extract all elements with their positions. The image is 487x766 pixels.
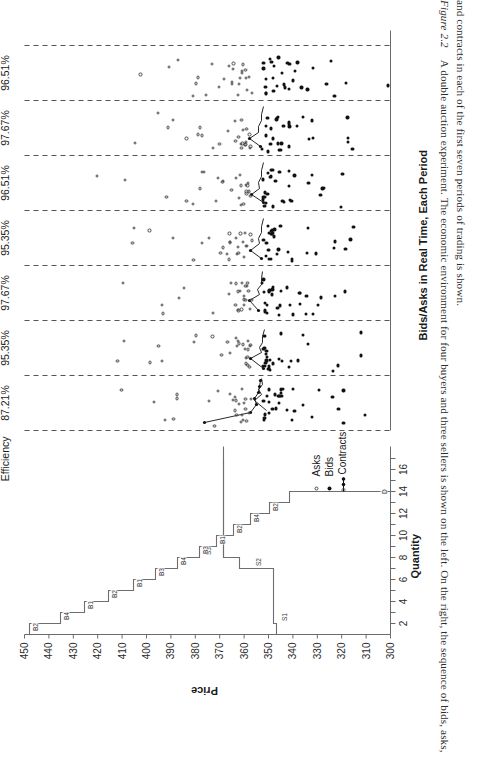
ask-point xyxy=(243,231,246,234)
bid-point xyxy=(268,368,271,371)
bid-point xyxy=(287,169,290,172)
bid-point xyxy=(287,124,290,127)
ask-point xyxy=(238,173,241,176)
ask-point xyxy=(161,311,164,314)
bid-point xyxy=(277,170,280,173)
ask-point xyxy=(247,365,250,368)
bid-point xyxy=(287,184,290,187)
bid-point xyxy=(336,407,339,410)
price-tick-370: 370 xyxy=(213,642,224,682)
ask-point xyxy=(214,199,217,202)
ask-point xyxy=(235,344,238,347)
bid-point xyxy=(267,288,270,291)
ask-point xyxy=(238,231,241,234)
ask-point xyxy=(204,93,207,96)
quantity-tick-6: 6 xyxy=(397,569,408,589)
bid-point xyxy=(269,168,272,171)
bid-point xyxy=(268,57,271,60)
bid-point xyxy=(285,285,288,288)
price-axis-label: Price xyxy=(191,685,218,697)
ask-point xyxy=(147,228,150,231)
bid-point xyxy=(278,224,281,227)
ask-point xyxy=(240,71,243,74)
ask-point xyxy=(225,340,228,343)
bid-point xyxy=(269,174,272,177)
bid-point xyxy=(296,358,299,361)
ask-point xyxy=(249,397,252,400)
ask-point xyxy=(234,336,237,339)
price-tick-380: 380 xyxy=(189,642,200,682)
bid-point xyxy=(264,133,267,136)
ask-point xyxy=(194,81,197,84)
supply-demand-panel: 450 440 430 420 410 400 390 380 370 360 … xyxy=(18,442,414,678)
step-label-b2-1: B2 xyxy=(31,622,38,631)
period-efficiency-1: 87.21% xyxy=(0,375,10,430)
ask-point xyxy=(234,176,237,179)
ask-point xyxy=(239,146,242,149)
bid-point xyxy=(348,237,351,240)
ask-point xyxy=(182,286,185,289)
bid-point xyxy=(275,84,278,87)
bid-point xyxy=(261,399,264,402)
bid-point xyxy=(287,120,290,123)
ask-point xyxy=(198,125,201,128)
bid-point xyxy=(276,142,279,145)
bid-point xyxy=(264,77,267,80)
ask-point xyxy=(233,395,236,398)
ask-point xyxy=(239,183,242,186)
ask-point xyxy=(231,67,234,70)
ask-point xyxy=(240,281,243,284)
ask-point xyxy=(249,298,252,301)
bid-point xyxy=(341,388,344,391)
bid-point xyxy=(280,359,283,362)
ask-point xyxy=(176,58,179,61)
ask-point xyxy=(234,413,237,416)
bid-point xyxy=(330,395,333,398)
ask-point xyxy=(191,258,194,261)
bid-point xyxy=(275,252,278,255)
quantity-tick-4: 4 xyxy=(397,591,408,611)
ask-point xyxy=(250,238,253,241)
bid-point xyxy=(265,394,268,397)
bid-point xyxy=(263,190,266,193)
ask-point xyxy=(247,411,250,414)
ask-point xyxy=(250,91,253,94)
price-tick-440: 440 xyxy=(42,642,53,682)
ask-point xyxy=(245,244,248,247)
bid-point xyxy=(329,59,332,62)
bid-point xyxy=(301,403,304,406)
bid-point xyxy=(285,408,288,411)
bid-point xyxy=(339,205,342,208)
step-label-b4-3: B4 xyxy=(252,513,259,522)
step-label-b2-4: B2 xyxy=(271,502,278,511)
bid-point xyxy=(295,124,298,127)
step-label-b3-1: B3 xyxy=(157,567,164,576)
ask-point xyxy=(175,392,178,395)
ask-point xyxy=(171,118,174,121)
ask-point xyxy=(133,141,136,144)
figure-canvas: 450 440 430 420 410 400 390 380 370 360 … xyxy=(0,0,487,766)
period-efficiency-4: 95.35% xyxy=(0,210,10,265)
bids-asks-svg xyxy=(18,30,414,430)
step-label-b2-3: B2 xyxy=(235,524,242,533)
ask-point xyxy=(207,236,210,239)
ask-point xyxy=(246,339,249,342)
ask-point xyxy=(241,62,244,65)
bid-point xyxy=(264,91,267,94)
bid-point xyxy=(264,241,267,244)
bid-point xyxy=(299,85,302,88)
ask-point xyxy=(210,334,213,337)
price-tick-350: 350 xyxy=(262,642,273,682)
ask-point xyxy=(245,355,248,358)
bid-point xyxy=(267,387,270,390)
bid-point xyxy=(286,250,289,253)
bid-point xyxy=(265,303,268,306)
step-label-s2: S2 xyxy=(254,557,261,566)
ask-point xyxy=(248,307,251,310)
ask-point xyxy=(241,202,244,205)
ask-point xyxy=(234,398,237,401)
step-label-b2-2: B2 xyxy=(110,589,117,598)
bid-point xyxy=(271,89,274,92)
bid-point xyxy=(311,66,314,69)
bid-point xyxy=(332,246,335,249)
